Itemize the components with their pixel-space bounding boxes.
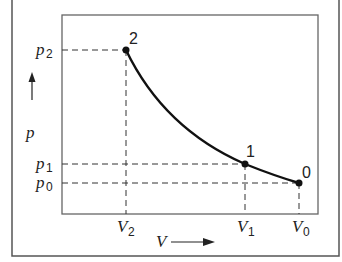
svg-text:1: 1 [46,161,53,175]
svg-text:0: 0 [46,180,53,194]
process-curve [126,50,299,183]
x-axis-label: V [156,232,169,251]
svg-text:2: 2 [46,47,53,61]
point-0-label: 0 [302,164,311,181]
v2-label: V 2 [117,217,135,239]
p1-label: p 1 [35,154,53,175]
point-2-label: 2 [129,30,138,47]
svg-text:p: p [35,40,45,59]
p2-label: p 2 [35,40,53,61]
v1-label: V 1 [237,217,255,239]
guide-lines [62,50,299,214]
outer-frame [12,0,339,256]
svg-text:2: 2 [128,225,135,239]
svg-text:p: p [35,154,45,173]
svg-text:p: p [35,173,45,192]
y-axis-label: p [25,123,35,142]
pv-diagram: 2 1 0 p 2 p 1 p 0 p V 2 V 1 V 0 V [0,0,342,262]
point-1 [242,161,249,168]
svg-text:1: 1 [248,225,255,239]
point-1-label: 1 [246,143,255,160]
plot-frame [62,15,318,214]
y-axis-arrow-icon [29,72,36,100]
svg-text:0: 0 [303,225,310,239]
x-axis-arrow-icon [171,238,215,246]
v0-label: V 0 [292,217,310,239]
p0-label: p 0 [35,173,53,194]
point-2 [123,47,130,54]
